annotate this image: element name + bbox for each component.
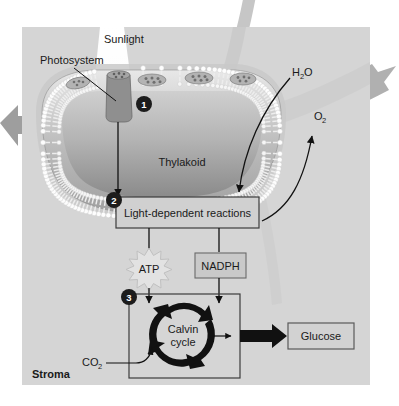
light-reactions-label: Light-dependent reactions [124, 207, 252, 219]
step-badge-3-label: 3 [126, 292, 131, 303]
co2-label-c: CO [82, 356, 99, 368]
step-badge-3[interactable]: 3 [121, 289, 137, 305]
oxygen-label-sub: 2 [322, 116, 326, 125]
step-badge-1-label: 1 [141, 99, 147, 110]
sunlight-label: Sunlight [104, 33, 144, 45]
water-label-o: O [304, 66, 313, 78]
atp-label: ATP [139, 263, 160, 275]
calvin-label-line1: Calvin [168, 323, 199, 335]
co2-label-sub: 2 [98, 362, 102, 371]
water-label-h: H [292, 66, 300, 78]
nadph-label: NADPH [201, 260, 240, 272]
photosystem-label: Photosystem [40, 54, 104, 66]
diagram-svg: 1 2 3 Sunlight Photosystem Thylakoid H 2… [0, 0, 399, 406]
stroma-label: Stroma [32, 368, 71, 380]
calvin-label-line2: cycle [170, 336, 195, 348]
thylakoid-label: Thylakoid [158, 156, 205, 168]
figure-canvas: 1 2 3 Sunlight Photosystem Thylakoid H 2… [0, 0, 399, 406]
step-badge-2-label: 2 [111, 195, 116, 206]
step-badge-2[interactable]: 2 [106, 192, 122, 208]
glucose-label: Glucose [301, 330, 341, 342]
step-badge-1[interactable]: 1 [136, 96, 152, 112]
